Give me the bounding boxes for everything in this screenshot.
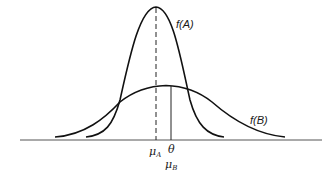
label-theta: θ bbox=[168, 143, 175, 156]
distribution-diagram: f(A) f(B) μA θ μB bbox=[0, 0, 335, 180]
curve-f-a bbox=[86, 7, 224, 137]
label-mu-a: μA bbox=[149, 145, 161, 159]
label-f-b: f(B) bbox=[250, 114, 268, 126]
label-mu-b: μB bbox=[165, 158, 177, 172]
curve-f-b bbox=[55, 86, 285, 138]
label-f-a: f(A) bbox=[176, 18, 194, 30]
